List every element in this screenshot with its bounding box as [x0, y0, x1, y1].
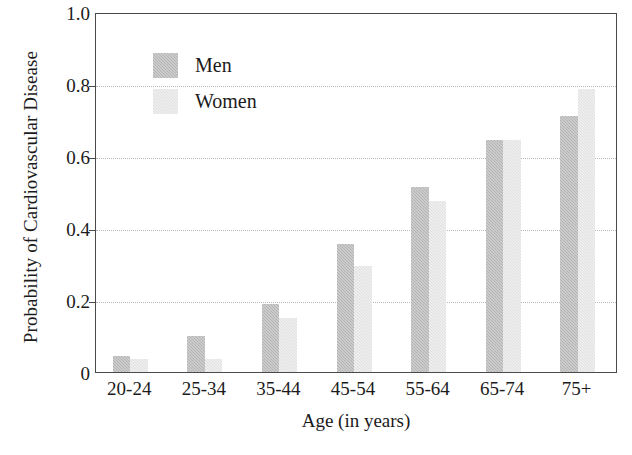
cardiovascular-disease-bar-chart: Probability of Cardiovascular Disease 00…	[0, 0, 632, 455]
x-axis-title: Age (in years)	[95, 410, 617, 432]
y-axis-tick-mark	[89, 230, 96, 231]
y-axis-tick-mark	[89, 302, 96, 303]
bar-women-25-34	[205, 359, 223, 372]
bar-women-35-44	[279, 318, 297, 372]
bar-women-65-74	[503, 140, 521, 372]
bar-men-75+	[560, 116, 578, 372]
bar-men-35-44	[262, 304, 280, 372]
bar-women-45-54	[354, 266, 372, 372]
plot-area: Men Women	[95, 13, 617, 373]
y-axis-tick-mark	[89, 158, 96, 159]
legend-item-men: Men	[153, 47, 333, 83]
bar-women-75+	[578, 89, 596, 372]
x-axis-tick-label: 45-54	[331, 378, 375, 400]
bar-women-55-64	[429, 201, 447, 372]
y-axis-tick-label: 0.2	[44, 292, 90, 311]
y-axis-tick-label: 1.0	[44, 4, 90, 23]
x-axis-tick-label: 75+	[562, 378, 592, 400]
y-axis-tick-label: 0.4	[44, 220, 90, 239]
bar-women-20-24	[130, 359, 148, 372]
y-axis-tick-mark	[89, 86, 96, 87]
legend-swatch-men-icon	[153, 53, 178, 78]
bar-men-20-24	[113, 356, 131, 372]
legend-label-men: Men	[195, 54, 232, 77]
bar-men-45-54	[337, 244, 355, 372]
y-axis-tick-label: 0.6	[44, 148, 90, 167]
x-axis-tick-label: 25-34	[182, 378, 226, 400]
y-axis-tick-label: 0	[44, 364, 90, 383]
x-axis-tick-labels: 20-2425-3435-4445-5455-6465-7475+	[95, 378, 617, 404]
bar-men-25-34	[187, 336, 205, 372]
legend-swatch-women-icon	[153, 89, 178, 114]
x-axis-tick-label: 35-44	[256, 378, 300, 400]
x-axis-tick-label: 20-24	[107, 378, 151, 400]
y-axis-tick-label: 0.8	[44, 76, 90, 95]
bar-men-65-74	[486, 140, 504, 372]
legend: Men Women	[153, 47, 333, 119]
bar-men-55-64	[411, 187, 429, 372]
legend-item-women: Women	[153, 83, 333, 119]
y-axis-tick-labels: 00.20.40.60.81.0	[38, 0, 90, 455]
x-axis-tick-label: 65-74	[480, 378, 524, 400]
x-axis-tick-label: 55-64	[405, 378, 449, 400]
legend-label-women: Women	[195, 90, 257, 113]
